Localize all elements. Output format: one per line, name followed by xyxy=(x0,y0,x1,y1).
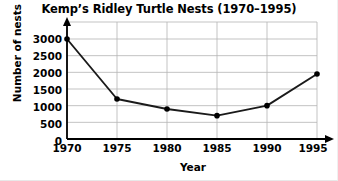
data-point-marker xyxy=(214,113,220,119)
y-axis-arrowhead xyxy=(63,17,71,26)
data-point-marker xyxy=(164,106,170,112)
data-point-marker xyxy=(114,96,120,102)
chart-figure: Kemp’s Ridley Turtle Nests (1970–1995) N… xyxy=(0,0,338,181)
grid-lines xyxy=(67,22,317,139)
x-axis-arrowhead xyxy=(325,135,334,143)
axes xyxy=(63,17,334,143)
data-markers xyxy=(64,36,320,118)
data-point-marker xyxy=(314,71,320,77)
x-axis-label: Year xyxy=(67,161,319,173)
plot-area xyxy=(0,0,338,181)
data-line xyxy=(67,39,317,116)
data-point-marker xyxy=(64,36,70,42)
data-point-marker xyxy=(264,103,270,109)
